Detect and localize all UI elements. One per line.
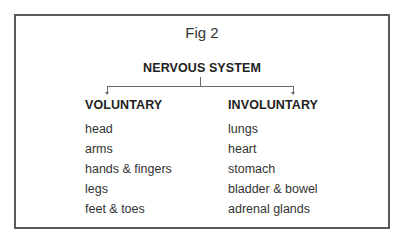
branch-voluntary: VOLUNTARY head arms hands & fingers legs… bbox=[85, 98, 172, 221]
list-item: feet & toes bbox=[85, 201, 172, 221]
involuntary-list: lungs heart stomach bladder & bowel adre… bbox=[228, 121, 318, 221]
branch-header-involuntary: INVOLUNTARY bbox=[228, 98, 318, 112]
list-item: arms bbox=[85, 141, 172, 161]
list-item: lungs bbox=[228, 121, 318, 141]
list-item: stomach bbox=[228, 161, 318, 181]
branch-header-voluntary: VOLUNTARY bbox=[85, 98, 172, 112]
connector-horizontal bbox=[107, 86, 294, 87]
root-node-nervous-system: NERVOUS SYSTEM bbox=[0, 61, 404, 75]
list-item: legs bbox=[85, 181, 172, 201]
figure-frame bbox=[14, 14, 390, 229]
figure-title: Fig 2 bbox=[0, 24, 404, 41]
branch-involuntary: INVOLUNTARY lungs heart stomach bladder … bbox=[228, 98, 318, 221]
list-item: hands & fingers bbox=[85, 161, 172, 181]
arrow-down-icon bbox=[291, 92, 295, 95]
voluntary-list: head arms hands & fingers legs feet & to… bbox=[85, 121, 172, 221]
list-item: heart bbox=[228, 141, 318, 161]
list-item: bladder & bowel bbox=[228, 181, 318, 201]
list-item: adrenal glands bbox=[228, 201, 318, 221]
list-item: head bbox=[85, 121, 172, 141]
arrow-down-icon bbox=[105, 92, 109, 95]
